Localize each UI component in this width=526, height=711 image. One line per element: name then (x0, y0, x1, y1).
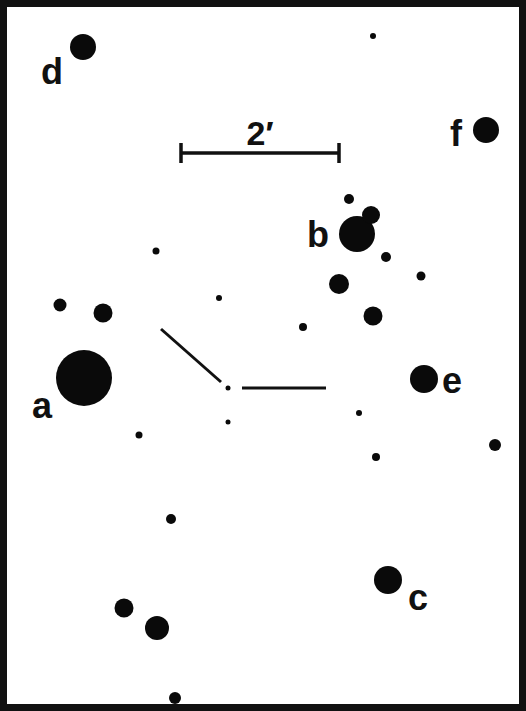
star (94, 304, 113, 323)
star-c (374, 566, 402, 594)
star-label-a: a (32, 385, 53, 426)
finder-chart: 2′ abcdef (0, 0, 526, 711)
star (381, 252, 391, 262)
star (356, 410, 362, 416)
star-label-e: e (442, 360, 462, 401)
star (166, 514, 176, 524)
star (329, 274, 349, 294)
star (489, 439, 501, 451)
star-label-f: f (450, 113, 463, 154)
star (153, 248, 160, 255)
star (145, 616, 169, 640)
star (370, 33, 376, 39)
star (362, 206, 380, 224)
star (136, 432, 143, 439)
star-f (473, 117, 499, 143)
star (344, 194, 354, 204)
star-label-b: b (307, 214, 329, 255)
star (372, 453, 380, 461)
star-label-d: d (41, 51, 63, 92)
scale-bar-label: 2′ (246, 114, 273, 152)
star-e (410, 365, 438, 393)
star-a (56, 350, 112, 406)
star (54, 299, 67, 312)
star (226, 420, 231, 425)
star (115, 599, 134, 618)
star (169, 692, 181, 704)
star (299, 323, 307, 331)
star-d (70, 34, 96, 60)
star (216, 295, 222, 301)
star (226, 386, 231, 391)
star (417, 272, 426, 281)
star-label-c: c (408, 577, 428, 618)
star (364, 307, 383, 326)
